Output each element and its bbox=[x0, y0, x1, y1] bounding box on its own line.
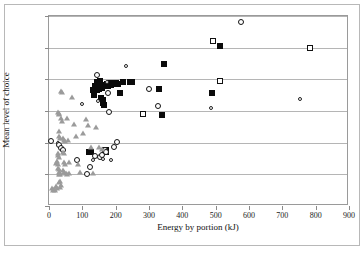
x-tick-label: 0 bbox=[47, 212, 51, 220]
data-point-triangle bbox=[77, 170, 83, 175]
data-point-open-square bbox=[217, 78, 223, 84]
data-point-open-square bbox=[140, 111, 146, 117]
data-point-open-circle bbox=[94, 72, 100, 78]
x-tick-mark bbox=[216, 206, 217, 210]
data-point-triangle bbox=[69, 95, 75, 100]
x-tick-label: 200 bbox=[110, 212, 122, 220]
data-point-triangle bbox=[85, 122, 91, 127]
x-tick-mark bbox=[249, 206, 250, 210]
gridline-horizontal bbox=[49, 111, 347, 112]
x-tick-label: 300 bbox=[143, 212, 155, 220]
x-tick-label: 700 bbox=[276, 212, 288, 220]
data-point-triangle bbox=[66, 160, 72, 165]
data-point-open-circle bbox=[101, 157, 105, 161]
x-tick-label: 100 bbox=[76, 212, 88, 220]
data-point-triangle bbox=[64, 115, 70, 120]
x-tick-label: 400 bbox=[176, 212, 188, 220]
x-tick-label: 600 bbox=[243, 212, 255, 220]
data-point-open-circle bbox=[106, 109, 112, 115]
x-tick-mark bbox=[149, 206, 150, 210]
data-point-triangle bbox=[93, 124, 99, 129]
x-tick-mark bbox=[349, 206, 350, 210]
y-tick-mark bbox=[45, 16, 49, 17]
data-point-filled-square bbox=[101, 102, 107, 108]
x-tick-mark bbox=[116, 206, 117, 210]
data-point-open-circle bbox=[105, 90, 111, 96]
x-tick-label: 900 bbox=[343, 212, 355, 220]
data-point-open-circle bbox=[209, 106, 213, 110]
data-point-filled-square bbox=[161, 61, 167, 67]
data-point-triangle bbox=[66, 171, 72, 176]
data-point-filled-square bbox=[217, 43, 223, 49]
data-point-triangle bbox=[83, 117, 89, 122]
x-tick-mark bbox=[82, 206, 83, 210]
data-point-filled-square bbox=[156, 86, 162, 92]
data-point-triangle bbox=[75, 162, 81, 167]
y-tick-mark bbox=[45, 79, 49, 80]
data-point-triangle bbox=[88, 145, 94, 150]
x-axis-title: Energy by portion (kJ) bbox=[48, 222, 348, 232]
data-point-open-circle bbox=[87, 164, 93, 170]
data-point-open-circle bbox=[238, 19, 244, 25]
data-point-triangle bbox=[90, 171, 96, 176]
plot-area: 0.000.050.100.150.200.250.30 01002003004… bbox=[48, 15, 348, 205]
data-point-open-circle bbox=[96, 99, 100, 103]
data-point-open-circle bbox=[146, 86, 152, 92]
data-point-triangle bbox=[56, 128, 62, 133]
data-point-open-circle bbox=[109, 158, 113, 162]
y-tick-mark bbox=[45, 48, 49, 49]
x-tick-mark bbox=[282, 206, 283, 210]
data-point-triangle bbox=[59, 90, 65, 95]
data-point-open-square bbox=[307, 45, 313, 51]
data-point-triangle bbox=[61, 151, 67, 156]
gridline-horizontal bbox=[49, 143, 347, 144]
data-point-triangle bbox=[80, 130, 86, 135]
gridline-horizontal bbox=[49, 16, 347, 17]
data-point-open-circle bbox=[298, 97, 302, 101]
data-point-filled-square bbox=[117, 90, 123, 96]
data-point-open-circle bbox=[124, 64, 128, 68]
data-point-open-circle bbox=[91, 158, 95, 162]
data-point-triangle bbox=[65, 138, 71, 143]
data-point-filled-square bbox=[159, 112, 165, 118]
data-point-open-circle bbox=[84, 171, 90, 177]
x-tick-label: 800 bbox=[310, 212, 322, 220]
data-point-triangle bbox=[57, 185, 63, 190]
data-point-open-circle bbox=[114, 139, 120, 145]
data-point-open-circle bbox=[48, 138, 54, 144]
y-axis-title: Mean level of choice bbox=[1, 72, 11, 148]
data-point-open-circle bbox=[105, 80, 109, 84]
data-point-open-square bbox=[210, 38, 216, 44]
x-tick-mark bbox=[182, 206, 183, 210]
data-point-open-circle bbox=[155, 103, 161, 109]
y-tick-mark bbox=[45, 111, 49, 112]
gridline-horizontal bbox=[49, 48, 347, 49]
data-point-filled-square bbox=[120, 79, 126, 85]
data-point-filled-square bbox=[129, 79, 135, 85]
data-point-triangle bbox=[71, 122, 77, 127]
data-point-open-circle bbox=[80, 102, 84, 106]
figure-container: Mean level of choice Energy by portion (… bbox=[0, 0, 364, 256]
y-tick-mark bbox=[45, 174, 49, 175]
x-tick-mark bbox=[316, 206, 317, 210]
data-point-filled-square bbox=[209, 90, 215, 96]
data-point-triangle bbox=[73, 134, 79, 139]
x-tick-mark bbox=[49, 206, 50, 210]
data-point-triangle bbox=[99, 147, 105, 152]
x-tick-label: 500 bbox=[210, 212, 222, 220]
